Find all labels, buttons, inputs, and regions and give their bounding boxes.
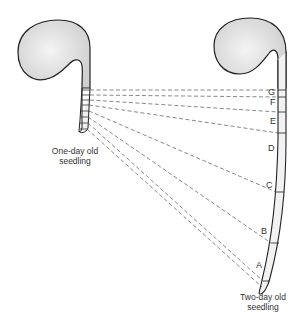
segment-label-d: D <box>268 143 275 153</box>
right-cotyledon <box>214 18 286 88</box>
segment-label-g: G <box>268 87 275 97</box>
correspondence-lines <box>87 90 278 287</box>
two-day-caption: Two-day old seedling <box>228 292 298 312</box>
one-day-caption-line2: seedling <box>40 156 110 166</box>
segment-label-b: B <box>261 226 267 236</box>
two-day-seedling <box>214 18 286 294</box>
segment-label-f: F <box>270 97 276 107</box>
one-day-seedling <box>18 20 90 133</box>
two-day-caption-line2: seedling <box>228 302 298 312</box>
left-cotyledon <box>18 20 90 88</box>
one-day-caption: One-day old seedling <box>40 146 110 166</box>
one-day-caption-line1: One-day old <box>40 146 110 156</box>
segment-label-a: A <box>256 260 262 270</box>
segment-label-c: C <box>266 180 273 190</box>
two-day-caption-line1: Two-day old <box>228 292 298 302</box>
segment-label-e: E <box>270 116 276 126</box>
